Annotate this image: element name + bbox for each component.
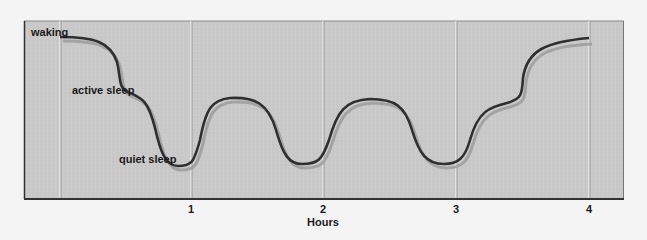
label-waking: waking <box>30 26 68 38</box>
x-tick-1: 1 <box>188 203 194 215</box>
label-active-sleep: active sleep <box>72 84 135 96</box>
x-tick-4: 4 <box>586 203 593 215</box>
x-tick-3: 3 <box>453 203 459 215</box>
sleep-cycle-diagram: waking active sleep quiet sleep 1 2 3 4 … <box>0 0 647 240</box>
x-tick-2: 2 <box>320 203 326 215</box>
label-quiet-sleep: quiet sleep <box>119 153 177 165</box>
x-axis-title: Hours <box>307 216 339 228</box>
